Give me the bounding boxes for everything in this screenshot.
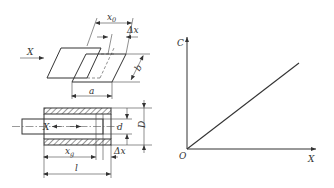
l-label: l	[75, 163, 78, 173]
D-label: D	[137, 121, 147, 129]
d-label: d	[117, 122, 123, 132]
motion-label: X	[26, 47, 34, 57]
dx-label-bottom: Δx	[113, 146, 126, 156]
b-label: b	[133, 63, 145, 73]
plate-capacitor-diagram: X x0 Δx b a	[20, 12, 150, 99]
origin-label: O	[179, 151, 187, 161]
c-vs-x-graph: C X O	[177, 37, 316, 164]
xg-label: xg	[65, 146, 74, 158]
dx-label-top: Δx	[126, 25, 139, 35]
moving-plate	[47, 48, 101, 78]
x0-label: x0	[107, 12, 116, 24]
y-axis-label: C	[177, 38, 184, 48]
outer-tube-bottom-wall	[44, 139, 111, 145]
outer-tube-top-wall	[44, 108, 111, 114]
diagram-canvas: X x0 Δx b a	[0, 0, 334, 188]
x-axis-label: X	[307, 154, 315, 164]
cylindrical-capacitor-diagram: X d D xg Δx l	[12, 100, 152, 178]
a-label: a	[89, 86, 94, 96]
linear-plot-line	[187, 63, 299, 149]
rod-motion-label: X	[42, 122, 50, 132]
